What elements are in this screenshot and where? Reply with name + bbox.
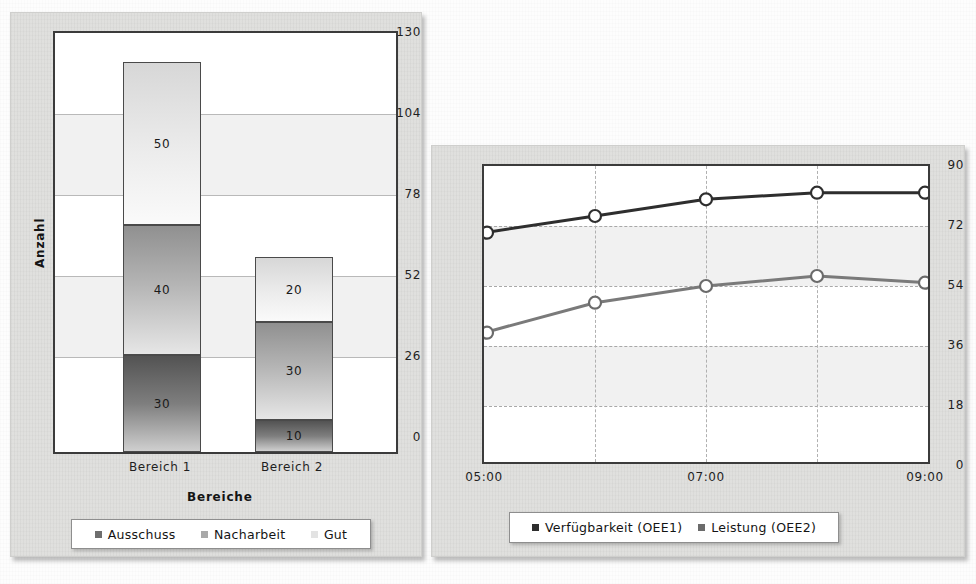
bar-x-axis-title: Bereiche [187,490,253,504]
bar-segment-label: 20 [286,283,302,297]
bar-band-52-26 [55,276,396,357]
line-chart-panel: 90 72 54 36 18 0 [431,145,965,557]
legend-swatch-icon [698,524,705,531]
bar-segment-bereich1-nacharbeit[interactable]: 40 [123,225,201,355]
legend-label: Gut [324,527,347,542]
line-xtick-0500: 05:00 [465,470,503,484]
line-plot-area [482,164,930,464]
legend-label: Ausschuss [108,527,176,542]
bar-segment-label: 30 [286,364,302,378]
legend-item-gut[interactable]: Gut [311,527,347,542]
bar-chart-panel: 130 104 78 52 26 0 Anzahl 50 40 30 20 [10,12,422,557]
bar-segment-bereich2-nacharbeit[interactable]: 30 [255,322,333,420]
bar-segment-label: 40 [154,283,170,297]
legend-item-verfuegbarkeit[interactable]: Verfügbarkeit (OEE1) [532,520,683,535]
legend-item-ausschuss[interactable]: Ausschuss [95,527,176,542]
legend-item-nacharbeit[interactable]: Nacharbeit [201,527,286,542]
line-marker-oee1 [700,193,712,205]
bar-gridline-26 [55,357,396,358]
line-marker-oee1 [919,187,930,199]
bar-segment-bereich2-gut[interactable]: 20 [255,257,333,322]
line-marker-oee1 [484,227,493,239]
line-chart-legend: Verfügbarkeit (OEE1) Leistung (OEE2) [509,512,839,543]
bar-segment-bereich1-gut[interactable]: 50 [123,62,201,225]
line-marker-oee2 [484,327,493,339]
legend-swatch-icon [532,524,539,531]
bar-gridline-78 [55,195,396,196]
legend-label: Verfügbarkeit (OEE1) [545,520,683,535]
bar-chart-legend: Ausschuss Nacharbeit Gut [71,519,371,549]
bar-segment-bereich2-ausschuss[interactable]: 10 [255,420,333,452]
line-marker-oee2 [811,270,823,282]
legend-item-leistung[interactable]: Leistung (OEE2) [698,520,816,535]
bar-plot-area: 50 40 30 20 30 10 [53,31,398,454]
line-series-svg [484,166,930,464]
legend-swatch-icon [311,531,318,538]
legend-label: Nacharbeit [214,527,286,542]
line-marker-oee2 [589,297,601,309]
legend-swatch-icon [201,531,208,538]
bar-band-104-78 [55,114,396,195]
line-marker-oee2 [700,280,712,292]
bar-segment-bereich1-ausschuss[interactable]: 30 [123,355,201,452]
bar-gridline-52 [55,276,396,277]
bar-segment-label: 10 [286,429,302,443]
legend-label: Leistung (OEE2) [711,520,816,535]
bar-gridline-104 [55,114,396,115]
bar-segment-label: 50 [154,137,170,151]
bar-y-axis-title: Anzahl [33,218,47,268]
line-marker-oee1 [589,210,601,222]
bar-xtick-bereich2: Bereich 2 [261,460,323,474]
line-marker-oee1 [811,187,823,199]
line-xtick-0700: 07:00 [687,470,725,484]
bar-segment-label: 30 [154,397,170,411]
legend-swatch-icon [95,531,102,538]
line-xtick-0900: 09:00 [906,470,944,484]
bar-xtick-bereich1: Bereich 1 [129,460,191,474]
line-marker-oee2 [919,277,930,289]
